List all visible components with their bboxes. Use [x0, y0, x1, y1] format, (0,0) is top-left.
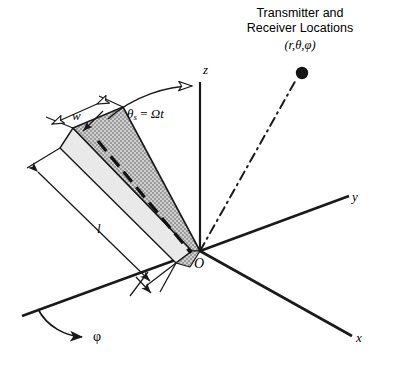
length-label: l: [97, 222, 101, 235]
tilt-angle-value: Ωt: [151, 106, 164, 121]
tilt-angle-label: θs = Ωt: [127, 107, 164, 122]
length-ext-line-1: [27, 148, 60, 168]
tilt-angle-equals: =: [137, 106, 151, 121]
phi-arc-path: [38, 309, 82, 337]
transmitter-receiver-point: [296, 67, 308, 79]
width-ext-line-2: [99, 96, 123, 107]
azimuth-angle-label: φ: [93, 330, 101, 344]
geometry-figure: [0, 0, 400, 371]
thickness-ext-line-2: [160, 263, 176, 292]
x-axis: [200, 251, 352, 336]
azimuth-angle-arc: [38, 309, 82, 337]
y-axis: [200, 196, 349, 251]
line-of-sight: [200, 78, 297, 251]
tilted-plate: [60, 107, 200, 267]
origin-label: O: [194, 257, 204, 271]
x-axis-label: x: [356, 331, 362, 344]
z-axis-label: z: [203, 63, 208, 76]
width-label: w: [72, 109, 81, 122]
width-ext-line-1: [46, 117, 73, 128]
y-axis-label: y: [352, 190, 358, 203]
